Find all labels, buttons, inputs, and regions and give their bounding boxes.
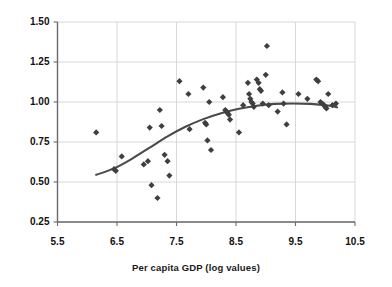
scatter-plot-figure: 0.250.500.751.001.251.50 5.56.57.58.59.5… [0,0,392,287]
x-tick-label: 9.5 [276,236,316,247]
y-tick-label: 0.25 [8,216,50,227]
y-tick-label: 0.50 [8,176,50,187]
fitted-trend-line [96,103,337,174]
x-tick-label: 8.5 [216,236,256,247]
y-tick-label: 1.50 [8,16,50,27]
x-tick-label: 6.5 [97,236,137,247]
x-tick-label: 5.5 [38,236,78,247]
x-tick-label: 10.5 [335,236,375,247]
y-tick-label: 0.75 [8,136,50,147]
y-tick-label: 1.00 [8,96,50,107]
x-axis-title: Per capita GDP (log values) [0,262,392,273]
y-tick-label: 1.25 [8,56,50,67]
scatter-data-points [93,43,339,201]
x-tick-label: 7.5 [157,236,197,247]
